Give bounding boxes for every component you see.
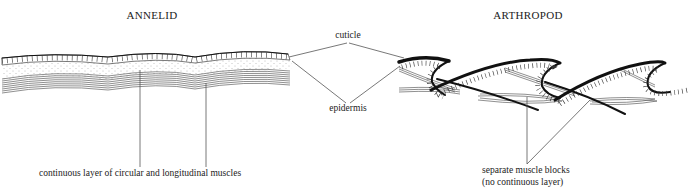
epidermis-leader-arthropod [350, 66, 400, 103]
cuticle-leader-annelid [289, 43, 347, 57]
arthropod-muscle-label-line2: (no continuous layer) [482, 177, 563, 188]
arthropod-segment-3 [545, 62, 688, 114]
cuticle-leader-arthropod [349, 43, 404, 58]
annelid-title: ANNELID [127, 9, 178, 21]
epidermis-leader-annelid [292, 61, 346, 103]
annelid-muscle-label: continuous layer of circular and longitu… [39, 168, 241, 178]
arthropod-panel: ARTHROPOD [399, 9, 688, 188]
arthropod-title: ARTHROPOD [493, 9, 562, 21]
cuticle-label: cuticle [335, 30, 360, 40]
body-wall-comparison-diagram: ANNELID continuous layer of circular and… [0, 0, 691, 191]
shared-labels: cuticle epidermis [289, 30, 404, 113]
annelid-panel: ANNELID continuous layer of circular and… [2, 9, 293, 178]
epidermis-label: epidermis [329, 103, 367, 113]
arthropod-muscle-label-line1: separate muscle blocks [482, 165, 570, 175]
arthropod-segment-2 [431, 59, 562, 110]
